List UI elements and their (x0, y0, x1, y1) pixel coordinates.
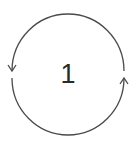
center-label: 1 (0, 60, 136, 88)
